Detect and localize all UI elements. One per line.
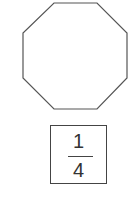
fraction-denominator: 4 (51, 159, 106, 181)
fraction-card: 1 4 (50, 125, 107, 184)
fraction-numerator: 1 (51, 130, 106, 152)
fraction-bar (68, 156, 93, 157)
octagon (23, 3, 127, 109)
